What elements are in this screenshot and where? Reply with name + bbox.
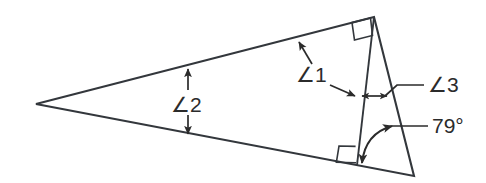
right-angle-apex-marker xyxy=(352,18,373,40)
angle-1-label: ∠1 xyxy=(296,63,327,86)
geometry-figure: ∠1 ∠2 ∠3 79° xyxy=(0,0,486,183)
angle-2-annotation: ∠2 xyxy=(171,69,202,134)
right-angle-square-foot xyxy=(336,146,356,163)
angle-1-leader-upper xyxy=(299,42,312,64)
angle-1-annotation: ∠1 xyxy=(296,42,355,96)
right-angle-foot-marker xyxy=(336,146,356,163)
right-angle-square-apex xyxy=(352,18,373,40)
angle-3-annotation: ∠3 xyxy=(362,73,459,96)
triangle-path xyxy=(36,17,414,176)
angle-3-label: ∠3 xyxy=(428,73,459,96)
angle-79-degree-label: 79° xyxy=(432,114,464,137)
angle-1-leader-lower xyxy=(330,85,355,96)
triangle-outline xyxy=(36,17,414,176)
angle-2-label: ∠2 xyxy=(171,93,202,116)
angle-79-arc-arrow xyxy=(362,126,392,163)
angle-79-annotation: 79° xyxy=(362,114,464,163)
geometry-canvas: ∠1 ∠2 ∠3 79° xyxy=(0,0,486,183)
